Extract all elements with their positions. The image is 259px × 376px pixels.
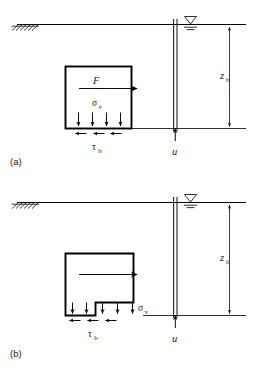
retaining-wall-a: [174, 19, 177, 131]
shear-stress-sub-b: b: [94, 334, 98, 342]
water-table-icon-b: [184, 195, 197, 208]
vertical-stress-sub-a: v: [99, 103, 103, 111]
pore-pressure-label-b: u: [172, 333, 177, 344]
shear-stress-label-b: τ: [88, 329, 92, 339]
water-table-icon-a: [184, 17, 197, 30]
figure-root: F σ v τ b u: [0, 0, 259, 376]
vertical-stress-sub-b: v: [145, 308, 149, 316]
depth-sub-a: b: [226, 76, 230, 84]
vertical-stress-label-b: σ: [138, 303, 143, 313]
panel-label-b: (b): [10, 348, 22, 359]
down-arrow-icon-group-b: [73, 303, 133, 314]
shear-stress-sub-a: b: [98, 147, 102, 155]
shear-stress-label-a: τ: [92, 142, 96, 152]
vertical-stress-label-a: σ: [92, 98, 97, 108]
panel-b: σ v τ b u: [10, 195, 246, 360]
panel-a: F σ v τ b u: [10, 17, 246, 168]
soil-block-b: [66, 254, 134, 316]
geotechnical-diagram: F σ v τ b u: [0, 0, 259, 376]
depth-sub-b: b: [226, 258, 230, 266]
retaining-wall-b: [174, 197, 177, 318]
depth-label-a: z: [219, 70, 224, 81]
ground-hatch-icon-b: [12, 203, 40, 209]
force-label-a: F: [92, 75, 100, 86]
ground-hatch-icon-a: [12, 25, 40, 31]
panel-label-a: (a): [10, 156, 22, 167]
down-arrow-icon-group-a: [79, 113, 121, 127]
pore-pressure-label-a: u: [172, 146, 177, 157]
depth-label-b: z: [219, 252, 224, 263]
